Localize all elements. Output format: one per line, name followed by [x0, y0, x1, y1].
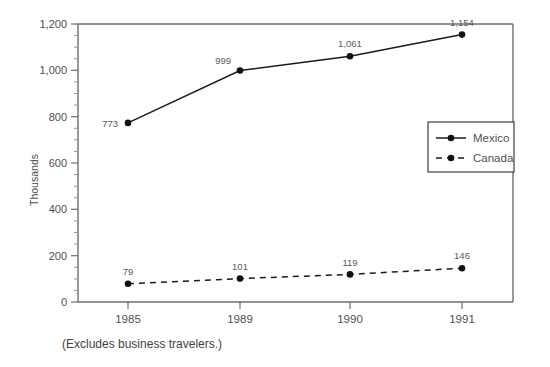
canada-value-label-1985: 79: [123, 266, 134, 277]
canada-value-label-1989: 101: [232, 261, 248, 272]
x-axis-label-1991: 1991: [449, 313, 475, 325]
y-axis-label-800: 800: [49, 111, 67, 123]
mexico-value-label-1990: 1,061: [338, 38, 362, 49]
mexico-point-1991: [459, 31, 466, 38]
legend-label-mexico: Mexico: [473, 132, 509, 144]
series-canada: 79 101 119 146: [123, 250, 470, 287]
chart-footnote: (Excludes business travelers.): [62, 337, 222, 351]
canada-value-label-1990: 119: [342, 257, 357, 268]
y-axis-label-1000: 1,000: [39, 64, 67, 76]
mexico-value-label-1985: 773: [102, 118, 118, 129]
legend-marker-dot-icon: [448, 155, 455, 162]
y-axis-label-1200: 1,200: [39, 18, 67, 30]
mexico-line: [128, 35, 462, 123]
chart-container: 1,200 1,000 800 600 400 200 0 Thousands …: [0, 0, 550, 367]
canada-point-1989: [237, 275, 244, 282]
y-axis-title: Thousands: [28, 154, 40, 206]
chart-legend[interactable]: Mexico Canada: [428, 122, 514, 172]
mexico-value-label-1991: 1,154: [450, 17, 474, 28]
canada-point-1991: [459, 265, 466, 272]
x-axis-label-1990: 1990: [337, 313, 363, 325]
series-mexico: 773 999 1,061 1,154: [102, 17, 474, 129]
x-axis-tick-labels: 1985 1989 1990 1991: [115, 313, 475, 325]
y-axis-tick-labels: 1,200 1,000 800 600 400 200 0: [39, 18, 67, 308]
y-axis-label-200: 200: [49, 250, 67, 262]
canada-point-1985: [125, 280, 132, 287]
legend-box: [428, 122, 514, 172]
mexico-point-1985: [125, 120, 132, 127]
legend-marker-dot-icon: [448, 135, 455, 142]
y-axis-major-ticks: [71, 24, 78, 302]
mexico-point-1989: [237, 67, 244, 74]
x-axis-label-1989: 1989: [227, 313, 253, 325]
line-chart: 1,200 1,000 800 600 400 200 0 Thousands …: [0, 0, 550, 367]
y-axis-label-0: 0: [61, 296, 67, 308]
mexico-point-1990: [347, 53, 354, 60]
canada-point-1990: [347, 271, 354, 278]
canada-line: [128, 268, 462, 284]
y-axis-label-400: 400: [49, 203, 67, 215]
canada-value-label-1991: 146: [454, 250, 470, 261]
mexico-value-label-1989: 999: [215, 55, 231, 66]
y-axis-label-600: 600: [49, 157, 67, 169]
x-axis-ticks: [128, 302, 462, 309]
x-axis-label-1985: 1985: [115, 313, 141, 325]
legend-label-canada: Canada: [473, 152, 514, 164]
